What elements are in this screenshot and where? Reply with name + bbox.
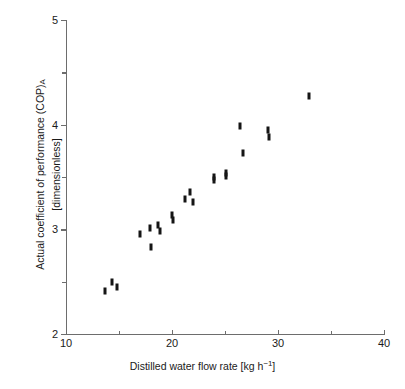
data-point	[267, 126, 270, 133]
x-axis-tick-label: 30	[272, 338, 284, 349]
data-point	[104, 288, 107, 295]
data-point	[115, 283, 118, 290]
x-axis-tick-label: 40	[378, 338, 390, 349]
data-point	[242, 149, 245, 156]
data-point	[239, 122, 242, 129]
data-point	[213, 177, 216, 184]
data-point	[139, 230, 142, 237]
data-point	[111, 278, 114, 285]
plot-area	[66, 20, 384, 334]
y-axis-title: Actual coefficient of performance (COP)A…	[34, 24, 63, 324]
data-point	[150, 244, 153, 251]
data-point	[148, 225, 151, 232]
x-axis-title-exponent: −1	[263, 359, 272, 368]
data-point	[171, 216, 174, 223]
y-axis-title-units: [dimensionless]	[49, 138, 61, 210]
scatter-chart-figure: 234510203040 Actual coefficient of perfo…	[0, 0, 405, 389]
data-point	[225, 169, 228, 176]
x-axis-tick	[384, 330, 385, 335]
data-point	[192, 199, 195, 206]
data-point	[183, 195, 186, 202]
y-axis-title-subscript: A	[38, 79, 47, 84]
data-point	[189, 188, 192, 195]
x-axis-tick-label: 20	[166, 338, 178, 349]
y-axis-title-main: Actual coefficient of performance (COP)	[34, 84, 46, 269]
data-point	[308, 93, 311, 100]
x-axis-title-main: Distilled water flow rate [kg h	[130, 360, 264, 372]
data-point	[158, 228, 161, 235]
y-axis-tick-label: 2	[52, 329, 58, 340]
data-point	[267, 134, 270, 141]
x-axis-title: Distilled water flow rate [kg h−1]	[0, 358, 405, 372]
x-axis-title-tail: ]	[272, 360, 275, 372]
x-axis-tick-label: 10	[60, 338, 72, 349]
